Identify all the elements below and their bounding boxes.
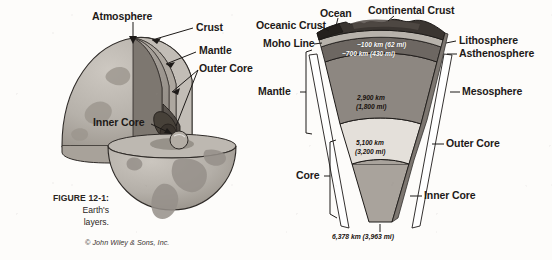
label-outer-core: Outer Core: [199, 63, 253, 74]
label-mesosphere: Mesosphere: [462, 86, 522, 97]
depth-asthenosphere: ~700 km (430 mi): [342, 50, 395, 58]
figure-caption-line1: Earth's: [4, 204, 109, 216]
label-lithosphere: Lithosphere: [459, 35, 518, 46]
label-wedge-outer-core: Outer Core: [446, 138, 500, 149]
label-wedge-core: Core: [296, 170, 320, 181]
label-continental-crust: Continental Crust: [368, 5, 454, 16]
label-ocean: Ocean: [320, 8, 352, 19]
label-asthenosphere: Asthenosphere: [459, 48, 534, 59]
globe-lower-hemisphere: [108, 131, 236, 232]
depth-outer-core-mi: (3,200 mi): [355, 148, 385, 156]
label-wedge-inner-core: Inner Core: [424, 190, 476, 201]
label-crust: Crust: [196, 22, 223, 33]
depth-outer-core-km: 5,100 km: [356, 139, 384, 147]
label-moho-line: Moho Line: [263, 38, 315, 49]
label-oceanic-crust: Oceanic Crust: [256, 20, 326, 31]
label-inner-core: Inner Core: [93, 117, 145, 128]
figure-caption: FIGURE 12-1: Earth's layers.: [4, 192, 109, 229]
depth-lithosphere: ~100 km (62 mi): [357, 41, 406, 49]
copyright-notice: © John Wiley & Sons, Inc.: [85, 238, 169, 247]
figure-number: FIGURE 12-1:: [4, 192, 109, 204]
label-wedge-mantle: Mantle: [258, 86, 291, 97]
label-atmosphere: Atmosphere: [92, 11, 152, 22]
depth-mesosphere-mi: (1,800 mi): [356, 103, 386, 111]
depth-earth-radius: 6,378 km (3,963 mi): [332, 233, 394, 240]
depth-mesosphere-km: 2,900 km: [357, 94, 385, 102]
label-mantle: Mantle: [199, 45, 232, 56]
figure-caption-line2: layers.: [4, 216, 109, 228]
earth-layers-figure: Atmosphere Crust Mantle Outer Core Inner…: [0, 0, 552, 260]
